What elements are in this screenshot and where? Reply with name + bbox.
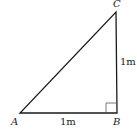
right-angle-marker	[106, 103, 117, 113]
triangle-diagram: C A B 1m 1m	[0, 0, 137, 137]
vertex-label-c: C	[113, 0, 121, 9]
side-label-ab: 1m	[60, 116, 76, 127]
vertex-label-b: B	[112, 116, 120, 127]
triangle-abc	[20, 12, 117, 113]
vertex-label-a: A	[10, 116, 18, 127]
side-label-bc: 1m	[120, 56, 136, 67]
